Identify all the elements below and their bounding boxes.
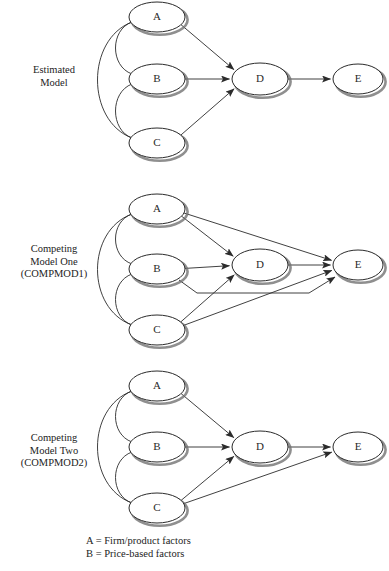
- model-group-competing-model-two: ABCDE: [98, 371, 386, 526]
- node-label-E: E: [355, 440, 362, 452]
- row-label-line: Model Two: [2, 445, 106, 458]
- node-label-B: B: [153, 440, 160, 452]
- node-label-D: D: [256, 440, 264, 452]
- node-label-A: A: [153, 202, 161, 214]
- node-label-D: D: [256, 72, 264, 84]
- row-label-line: Competing: [2, 243, 106, 256]
- row-label-line: Estimated: [2, 64, 106, 77]
- node-label-B: B: [153, 262, 160, 274]
- path-arrow-C-to-D: [181, 89, 234, 135]
- path-arrow-C-to-D: [181, 275, 235, 322]
- row-label-line: (COMPMOD1): [2, 268, 106, 281]
- legend-line: B = Price-based factors: [86, 548, 191, 561]
- row-label-line: Competing: [2, 432, 106, 445]
- row-label-line: Model: [2, 77, 106, 90]
- legend: A = Firm/product factorsB = Price-based …: [86, 535, 191, 560]
- row-label-line: Model One: [2, 256, 106, 269]
- node-label-E: E: [355, 72, 362, 84]
- path-arrow-A-to-D: [181, 394, 234, 438]
- path-arrow-A-to-D: [182, 216, 234, 256]
- path-arrow-B-to-D: [185, 266, 230, 269]
- node-label-A: A: [153, 10, 161, 22]
- legend-line: A = Firm/product factors: [86, 535, 191, 548]
- node-label-B: B: [153, 72, 160, 84]
- node-label-C: C: [153, 136, 160, 148]
- node-label-A: A: [153, 379, 161, 391]
- figure-canvas: ABCDEABCDEABCDE EstimatedModel Competing…: [0, 0, 389, 571]
- row-label-line: (COMPMOD2): [2, 457, 106, 470]
- node-label-C: C: [153, 501, 160, 513]
- path-arrow-C-to-D: [181, 456, 234, 500]
- row-label-estimated-model: EstimatedModel: [2, 64, 106, 89]
- model-group-estimated-model: ABCDE: [98, 2, 386, 161]
- node-label-D: D: [256, 258, 264, 270]
- model-group-competing-model-one: ABCDE: [98, 194, 386, 348]
- row-label-competing-model-one: CompetingModel One(COMPMOD1): [2, 243, 106, 281]
- node-label-C: C: [153, 323, 160, 335]
- row-label-competing-model-two: CompetingModel Two(COMPMOD2): [2, 432, 106, 470]
- node-label-E: E: [355, 258, 362, 270]
- path-arrow-A-to-D: [181, 25, 234, 70]
